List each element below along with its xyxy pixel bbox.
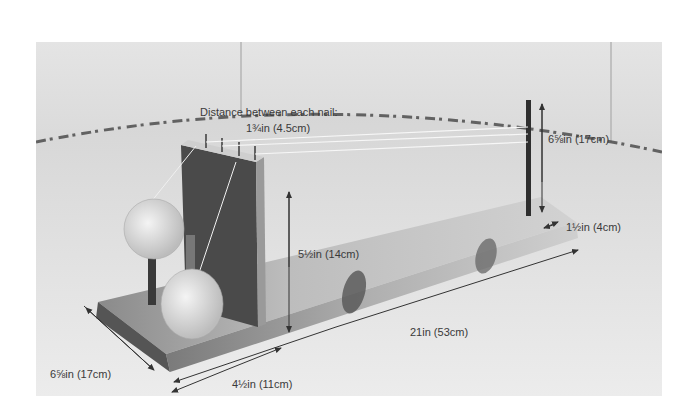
- jig-photo: [36, 42, 662, 396]
- right-dowel: [526, 100, 531, 216]
- upright-height-label: 5½in (14cm): [298, 248, 359, 261]
- jig-illustration: [36, 42, 662, 396]
- twine-ball-left: [124, 199, 184, 259]
- twine-ball-center: [161, 269, 223, 339]
- base-length-label: 21in (53cm): [410, 326, 468, 339]
- upright-offset-label: 4½in (11cm): [232, 378, 292, 391]
- dowel-height-label: 6⅝in (17cm): [548, 133, 609, 146]
- dowel-inset-label: 1½in (4cm): [566, 221, 621, 234]
- nail-spacing-value: 1¾in (4.5cm): [246, 122, 310, 135]
- base-width-label: 6⅝in (17cm): [50, 368, 111, 381]
- nail-spacing-title: Distance between each nail:: [200, 106, 338, 119]
